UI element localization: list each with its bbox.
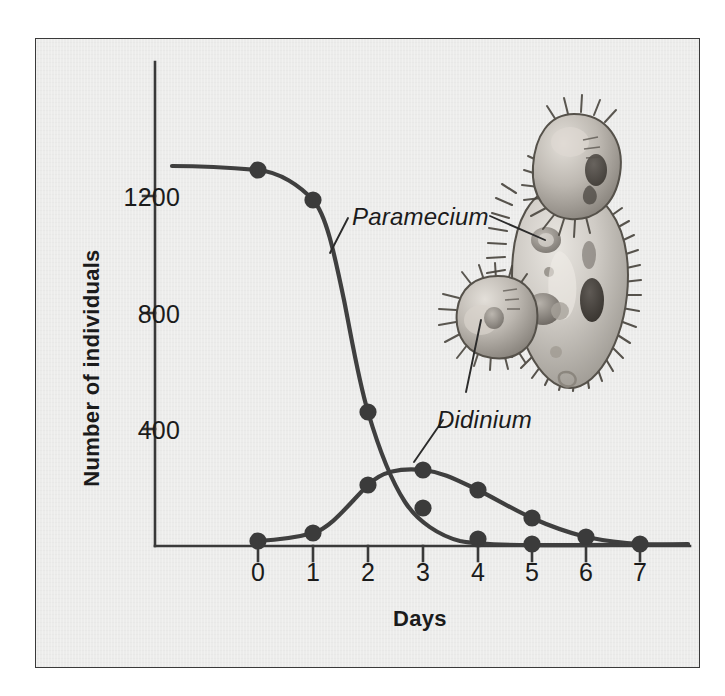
x-tick-label-4: 4 [458,558,498,587]
y-axis-title: Number of individuals [79,248,105,488]
didinium-annotation-label: Didinium [437,406,532,434]
plot-graphics [0,0,725,696]
x-tick-label-3: 3 [403,558,443,587]
x-tick-label-7: 7 [620,558,660,587]
x-tick-label-2: 2 [348,558,388,587]
x-axis-title: Days [330,606,510,632]
y-tick-label-400: 400 [100,416,180,445]
x-tick-label-6: 6 [566,558,606,587]
y-tick-label-800: 800 [100,300,180,329]
x-tick-label-0: 0 [238,558,278,587]
x-tick-label-5: 5 [512,558,552,587]
x-tick-label-1: 1 [293,558,333,587]
paramecium-annotation-label: Paramecium [352,203,489,231]
paramecium-leader-line [330,218,348,253]
y-tick-label-1200: 1200 [100,183,180,212]
figure-canvas: Number of individuals 1200 800 400 0 1 2… [0,0,725,696]
paramecium-and-didinium-illustration [439,95,641,391]
